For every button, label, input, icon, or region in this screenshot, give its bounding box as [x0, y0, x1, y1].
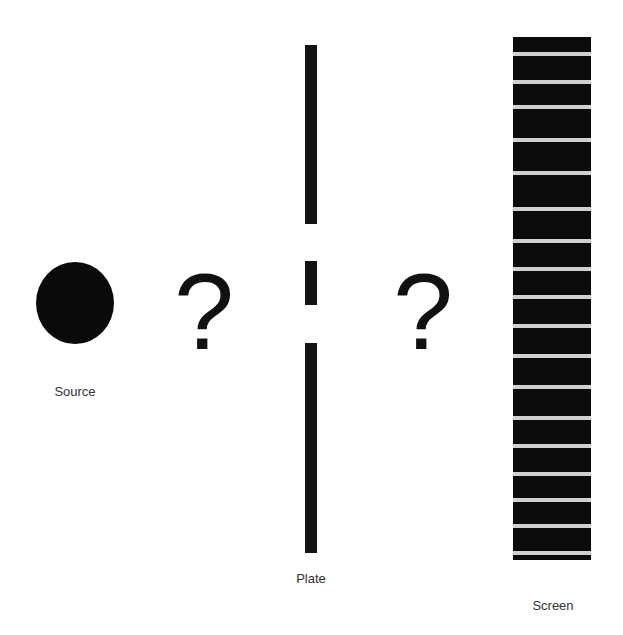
screen-fringe-line: [513, 105, 591, 109]
screen-fringe-line: [513, 295, 591, 299]
screen-fringe-line: [513, 385, 591, 389]
screen-fringe-line: [513, 551, 591, 555]
screen-interference-pattern: [513, 37, 591, 560]
plate-middle-segment: [305, 261, 317, 305]
screen-fringe-line: [513, 52, 591, 56]
plate-bottom-segment: [305, 343, 317, 553]
screen-fringe-line: [513, 444, 591, 448]
screen-fringe-line: [513, 354, 591, 358]
screen-fringe-line: [513, 498, 591, 502]
screen-fringe-line: [513, 324, 591, 328]
plate-label: Plate: [281, 571, 341, 586]
screen-fringe-line: [513, 267, 591, 271]
screen-fringe-line: [513, 171, 591, 175]
source-circle: [36, 262, 114, 344]
plate-top-segment: [305, 45, 317, 224]
screen-fringe-line: [513, 416, 591, 420]
screen-fringe-line: [513, 138, 591, 142]
screen-fringe-line: [513, 472, 591, 476]
question-mark-after-plate: ?: [393, 258, 453, 366]
screen-fringe-line: [513, 239, 591, 243]
screen-fringe-line: [513, 207, 591, 211]
screen-label: Screen: [513, 598, 593, 613]
screen-fringe-line: [513, 524, 591, 528]
question-mark-before-plate: ?: [174, 258, 234, 366]
source-label: Source: [36, 384, 114, 399]
screen-fringe-line: [513, 80, 591, 84]
